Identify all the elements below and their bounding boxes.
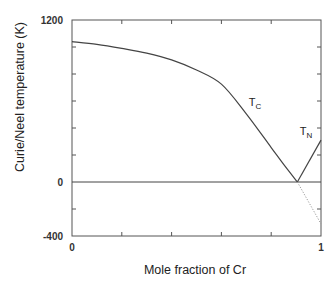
series-label-t-n: TN bbox=[300, 125, 313, 140]
x-axis-title: Mole fraction of Cr bbox=[144, 263, 246, 277]
y-tick-label: -400 bbox=[43, 231, 63, 242]
axis-ticks bbox=[72, 20, 321, 236]
x-tick-label: 0 bbox=[69, 242, 75, 253]
y-tick-label: 1200 bbox=[41, 15, 64, 26]
series-t-n bbox=[297, 140, 321, 182]
series-t-c-extrapolation bbox=[297, 182, 321, 224]
x-tick-label: 1 bbox=[318, 242, 324, 253]
series-label-t-c: TC bbox=[249, 96, 262, 111]
plot-border bbox=[72, 20, 321, 236]
data-series bbox=[72, 42, 321, 224]
plot-frame bbox=[72, 20, 321, 236]
tick-labels: 0112000-400 bbox=[41, 15, 324, 253]
y-tick-label: 0 bbox=[57, 177, 63, 188]
chart: 0112000-400 TCTN Mole fraction of Cr Cur… bbox=[0, 0, 335, 291]
series-t-c bbox=[72, 42, 297, 182]
series-labels: TCTN bbox=[249, 96, 313, 139]
y-axis-title: Curie/Neel temperature (K) bbox=[13, 22, 27, 172]
